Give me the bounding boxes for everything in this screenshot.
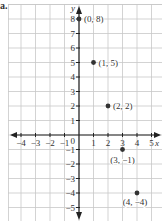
y-tick-label: 1 xyxy=(71,116,76,126)
x-tick-label: 4 xyxy=(135,138,140,148)
tick-labels: −4−3−2−112345−5−4−3−2−1123456780 xyxy=(16,14,154,213)
y-tick-label: 6 xyxy=(71,43,76,53)
coordinate-plane: xy −4−3−2−112345−5−4−3−2−1123456780 (0, … xyxy=(0,0,162,221)
y-tick-label: −3 xyxy=(65,174,75,184)
point-marker-icon xyxy=(120,147,125,152)
data-point: (2, 2) xyxy=(106,101,133,111)
point-label: (4, −4) xyxy=(123,197,148,207)
point-label: (2, 2) xyxy=(113,101,133,111)
data-point: (0, 8) xyxy=(77,14,104,24)
x-tick-label: −3 xyxy=(31,138,41,148)
y-tick-label: 2 xyxy=(71,101,76,111)
y-tick-label: 7 xyxy=(71,29,76,39)
point-label: (1, 5) xyxy=(99,58,119,68)
point-marker-icon xyxy=(77,17,82,22)
x-tick-label: 5 xyxy=(149,138,154,148)
y-tick-label: −1 xyxy=(65,145,75,155)
y-tick-label: −5 xyxy=(65,203,75,213)
y-tick-label: 8 xyxy=(71,14,76,24)
y-tick-label: 3 xyxy=(71,87,76,97)
point-label: (3, −1) xyxy=(110,155,135,165)
point-label: (0, 8) xyxy=(84,14,104,24)
x-tick-label: 2 xyxy=(106,138,111,148)
y-tick-label: −4 xyxy=(65,188,75,198)
x-tick-label: 3 xyxy=(120,138,125,148)
point-marker-icon xyxy=(135,191,140,196)
y-tick-label: 4 xyxy=(71,72,76,82)
point-marker-icon xyxy=(91,60,96,65)
y-axis-label: y xyxy=(70,3,75,13)
y-tick-label: −2 xyxy=(65,159,75,169)
data-point: (1, 5) xyxy=(91,58,118,68)
origin-label: 0 xyxy=(71,136,76,146)
y-axis-up-arrow-icon xyxy=(76,6,82,14)
x-axis-label: x xyxy=(154,138,159,148)
x-tick-label: −4 xyxy=(16,138,26,148)
x-tick-label: −2 xyxy=(45,138,55,148)
axes: xy xyxy=(10,3,161,220)
grid-lines xyxy=(8,4,162,221)
point-marker-icon xyxy=(106,104,111,109)
y-axis-down-arrow-icon xyxy=(76,212,82,220)
y-tick-label: 5 xyxy=(71,58,76,68)
x-tick-label: 1 xyxy=(91,138,96,148)
